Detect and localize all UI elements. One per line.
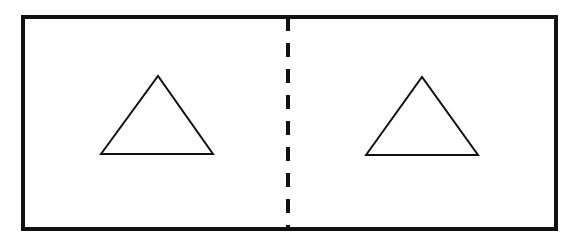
background — [0, 0, 584, 250]
fold-diagram — [0, 0, 584, 250]
